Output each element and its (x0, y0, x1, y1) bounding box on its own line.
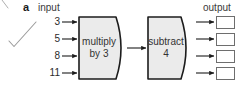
machine-1-label-line1: multiply (82, 36, 116, 47)
machine-1-label-line2: by 3 (90, 48, 109, 59)
diagram-overlay: multiply by 3 subtract 4 (0, 0, 241, 87)
input-arrows (62, 22, 77, 73)
check-mark-icon (2, 0, 36, 47)
output-arrows (196, 22, 214, 73)
function-machine-diagram: a input output 3 5 8 11 multip (0, 0, 241, 87)
function-machine-2: subtract 4 (148, 17, 186, 79)
function-machine-1: multiply by 3 (79, 17, 121, 79)
machine-2-label-line2: 4 (163, 48, 169, 59)
machine-2-label-line1: subtract (148, 36, 184, 47)
